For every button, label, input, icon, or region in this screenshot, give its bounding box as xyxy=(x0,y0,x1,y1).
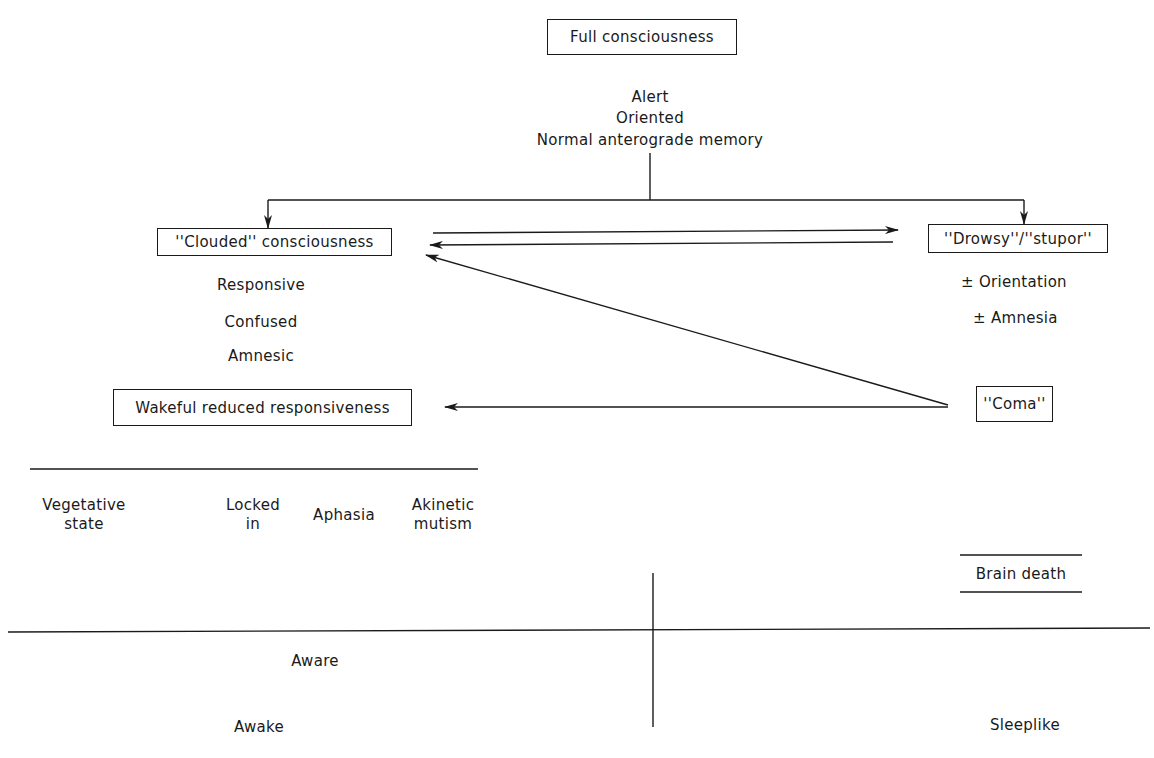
node-drowsy-stupor: ''Drowsy''/''stupor'' xyxy=(928,224,1108,253)
arrow-coma-to-clouded xyxy=(426,255,948,405)
subtype-locked-in: Locked in xyxy=(226,496,280,534)
node-label: Wakeful reduced responsiveness xyxy=(135,399,390,417)
arrow-drowsy-to-clouded xyxy=(430,242,893,245)
node-wakeful-reduced-responsiveness: Wakeful reduced responsiveness xyxy=(113,389,412,426)
arrow-clouded-to-drowsy xyxy=(433,230,898,233)
node-brain-death: Brain death xyxy=(976,565,1067,583)
attr-oriented: Oriented xyxy=(616,109,684,127)
attr-amnesic: Amnesic xyxy=(228,347,294,365)
subtype-vegetative-state: Vegetative state xyxy=(42,496,125,534)
axis-label-sleeplike: Sleeplike xyxy=(990,716,1060,734)
node-label: ''Drowsy''/''stupor'' xyxy=(944,230,1092,248)
attr-amnesia: ± Amnesia xyxy=(973,309,1058,327)
axis-label-awake: Awake xyxy=(234,718,284,736)
connector-lines xyxy=(0,0,1154,758)
node-full-consciousness: Full consciousness xyxy=(547,19,737,55)
node-clouded-consciousness: ''Clouded'' consciousness xyxy=(157,228,392,256)
node-coma: ''Coma'' xyxy=(976,386,1053,422)
node-label: ''Coma'' xyxy=(983,395,1045,413)
node-label: Full consciousness xyxy=(570,28,714,46)
attr-normal-anterograde-memory: Normal anterograde memory xyxy=(537,131,763,149)
attr-alert: Alert xyxy=(631,88,668,106)
horizontal-axis xyxy=(8,628,1150,632)
attr-orientation: ± Orientation xyxy=(961,273,1067,291)
subtype-aphasia: Aphasia xyxy=(313,506,375,525)
axis-label-aware: Aware xyxy=(291,652,339,670)
consciousness-states-diagram: Full consciousness Alert Oriented Normal… xyxy=(0,0,1154,758)
attr-responsive: Responsive xyxy=(217,276,305,294)
node-label: ''Clouded'' consciousness xyxy=(175,233,373,251)
subtype-akinetic-mutism: Akinetic mutism xyxy=(412,496,475,534)
attr-confused: Confused xyxy=(225,313,298,331)
